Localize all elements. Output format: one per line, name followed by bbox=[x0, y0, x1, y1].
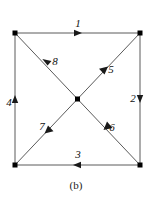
edge-label-2: 2 bbox=[130, 92, 136, 104]
top-left-vertex bbox=[13, 31, 18, 36]
edge-label-7: 7 bbox=[39, 120, 45, 132]
figure-caption: (b) bbox=[70, 179, 83, 192]
edge-labels: 1 2 3 4 5 6 7 8 bbox=[6, 17, 136, 160]
arrowhead-edge-1 bbox=[74, 30, 82, 36]
arrowhead-edge-3 bbox=[73, 162, 81, 168]
bottom-left-vertex bbox=[13, 163, 18, 168]
top-right-vertex bbox=[138, 31, 143, 36]
arrowhead-edge-5 bbox=[99, 67, 108, 75]
arrowhead-edge-4 bbox=[12, 95, 18, 103]
arrowhead-edge-2 bbox=[137, 95, 143, 103]
bottom-right-vertex bbox=[138, 163, 143, 168]
edge-label-3: 3 bbox=[74, 148, 81, 160]
edge-label-6: 6 bbox=[109, 121, 115, 133]
edge-label-1: 1 bbox=[75, 17, 81, 29]
arrowhead-edge-7 bbox=[45, 126, 54, 134]
center-vertex bbox=[75, 97, 80, 102]
edge-label-4: 4 bbox=[6, 96, 12, 108]
figure-container: 1 2 3 4 5 6 7 8 (b) bbox=[0, 0, 153, 200]
edge-label-8: 8 bbox=[52, 55, 58, 67]
edge-label-5: 5 bbox=[108, 63, 114, 75]
edge-line-8-topleft-to-center bbox=[15, 33, 78, 99]
directed-graph-diagram: 1 2 3 4 5 6 7 8 (b) bbox=[0, 0, 153, 200]
arrowhead-edge-8 bbox=[42, 59, 51, 66]
